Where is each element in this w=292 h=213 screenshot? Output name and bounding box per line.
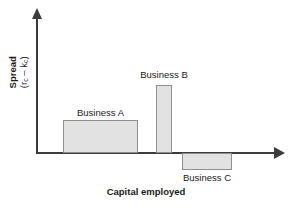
y-axis-title: Spread (rc – kc) (7, 17, 32, 127)
bar-business-b (156, 85, 172, 153)
y-axis-formula-sub1: c (22, 78, 29, 82)
bar-business-a (63, 120, 138, 153)
y-axis-formula-close: ) (18, 56, 29, 59)
x-axis-title: Capital employed (0, 186, 292, 197)
y-axis-arrow-icon (32, 8, 42, 19)
y-axis-formula-open: (r (18, 82, 29, 88)
bar-label-business-c: Business C (169, 172, 245, 183)
y-axis-formula-sub2: c (22, 60, 29, 64)
y-axis-line (36, 18, 38, 154)
y-axis-title-main: Spread (7, 17, 18, 127)
x-axis-arrow-icon (274, 147, 285, 159)
bar-label-business-a: Business A (63, 107, 138, 118)
y-axis-title-formula: (rc – kc) (18, 17, 32, 127)
bar-label-business-b: Business B (126, 69, 202, 80)
chart-figure: Business A Business B Business C Spread … (0, 0, 292, 213)
y-axis-formula-mid: – k (18, 63, 29, 78)
bar-business-c (182, 153, 232, 170)
